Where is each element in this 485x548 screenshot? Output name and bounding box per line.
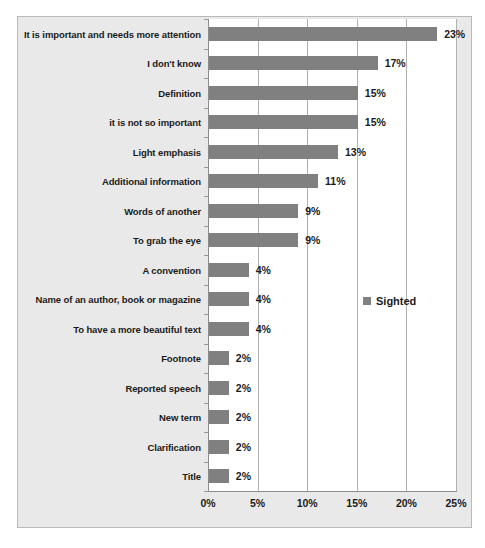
category-label: Light emphasis xyxy=(133,146,201,157)
bar-row: Words of another9% xyxy=(18,196,472,226)
category-label: Reported speech xyxy=(125,382,201,393)
bar-value-label: 15% xyxy=(365,116,386,128)
bar-value-label: 4% xyxy=(256,264,271,276)
x-axis-line xyxy=(208,491,457,492)
bar-row: Footnote2% xyxy=(18,344,472,374)
chart-legend: Sighted xyxy=(363,295,416,307)
bar[interactable] xyxy=(209,56,378,70)
bar-value-label: 15% xyxy=(365,87,386,99)
bar-row: New term2% xyxy=(18,403,472,433)
bar-row: Light emphasis13% xyxy=(18,137,472,167)
category-label: Definition xyxy=(158,87,201,98)
category-label: Clarification xyxy=(147,441,201,452)
bar[interactable] xyxy=(209,440,229,454)
bar[interactable] xyxy=(209,322,249,336)
category-label: I don't know xyxy=(147,58,201,69)
category-label: To have a more beautiful text xyxy=(73,323,201,334)
bar-row: It is important and needs more attention… xyxy=(18,19,472,49)
legend-label-sighted: Sighted xyxy=(376,295,416,307)
bar-value-label: 2% xyxy=(236,441,251,453)
bar[interactable] xyxy=(209,233,298,247)
bar-value-label: 4% xyxy=(256,323,271,335)
category-label: It is important and needs more attention xyxy=(24,28,201,39)
category-label: New term xyxy=(159,412,201,423)
x-tick-label: 20% xyxy=(396,497,417,509)
category-label: Footnote xyxy=(161,353,201,364)
bar-value-label: 9% xyxy=(305,234,320,246)
x-axis-tick-labels: 0%5%10%15%20%25% xyxy=(208,497,457,515)
x-tick-label: 10% xyxy=(297,497,318,509)
category-label: Additional information xyxy=(102,176,201,187)
category-label: Title xyxy=(182,471,201,482)
category-label: To grab the eye xyxy=(133,235,201,246)
bar[interactable] xyxy=(209,204,298,218)
bar-value-label: 11% xyxy=(325,175,345,187)
category-label: A convention xyxy=(142,264,201,275)
bar-chart-figure: It is important and needs more attention… xyxy=(17,16,472,528)
bar-value-label: 17% xyxy=(385,57,406,69)
bar-value-label: 9% xyxy=(305,205,320,217)
bar[interactable] xyxy=(209,145,338,159)
bar[interactable] xyxy=(209,174,318,188)
legend-swatch-sighted xyxy=(363,297,371,305)
bar[interactable] xyxy=(209,410,229,424)
bar-value-label: 13% xyxy=(345,146,366,158)
bar-row: Reported speech2% xyxy=(18,373,472,403)
bar[interactable] xyxy=(209,86,358,100)
x-tick-label: 5% xyxy=(250,497,265,509)
bar[interactable] xyxy=(209,292,249,306)
bar-row: To grab the eye9% xyxy=(18,226,472,256)
bar[interactable] xyxy=(209,27,437,41)
bar-row: Clarification2% xyxy=(18,432,472,462)
bar-row: it is not so important15% xyxy=(18,108,472,138)
bar-value-label: 4% xyxy=(256,293,271,305)
category-label: it is not so important xyxy=(109,117,201,128)
bar-row: Definition15% xyxy=(18,78,472,108)
bar[interactable] xyxy=(209,469,229,483)
category-label: Name of an author, book or magazine xyxy=(36,294,201,305)
x-tick-label: 0% xyxy=(200,497,215,509)
bar-value-label: 2% xyxy=(236,382,251,394)
bar[interactable] xyxy=(209,115,358,129)
bar-value-label: 2% xyxy=(236,411,251,423)
bar-row: To have a more beautiful text4% xyxy=(18,314,472,344)
axis-tick xyxy=(204,491,208,492)
bar[interactable] xyxy=(209,263,249,277)
bar-row: I don't know17% xyxy=(18,49,472,79)
bar-value-label: 2% xyxy=(236,352,251,364)
bar[interactable] xyxy=(209,381,229,395)
bar-row: Title2% xyxy=(18,462,472,492)
bar-row: Additional information11% xyxy=(18,167,472,197)
bar-row: A convention4% xyxy=(18,255,472,285)
category-label: Words of another xyxy=(124,205,201,216)
x-tick-label: 25% xyxy=(445,497,466,509)
bar-value-label: 2% xyxy=(236,470,251,482)
bar-value-label: 23% xyxy=(444,28,465,40)
x-tick-label: 15% xyxy=(346,497,367,509)
bar[interactable] xyxy=(209,351,229,365)
